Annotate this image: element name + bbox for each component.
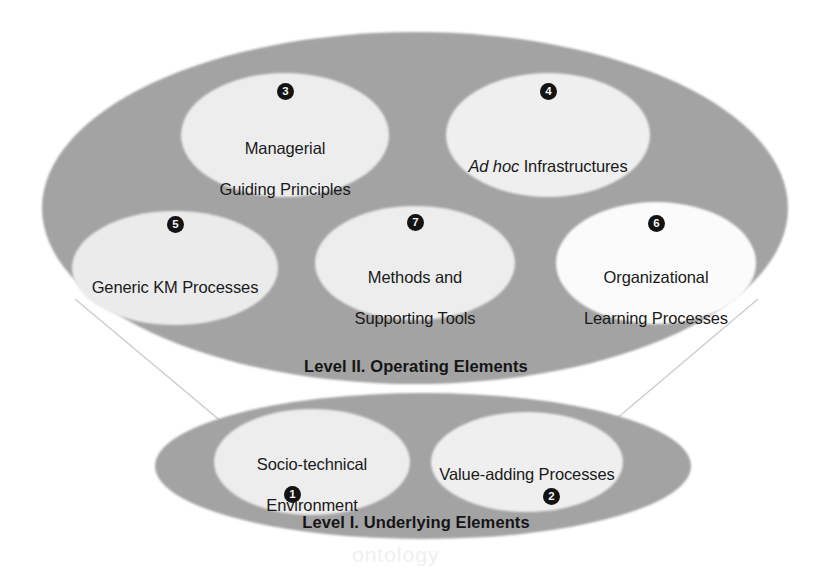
- badge-5: 5: [167, 216, 184, 233]
- badge-4: 4: [540, 83, 557, 100]
- badge-6: 6: [648, 215, 665, 232]
- level-1-label: Level I. Underlying Elements: [0, 513, 832, 532]
- node-ellipse-socio-technical-environment: [214, 409, 410, 515]
- badge-3: 3: [277, 83, 294, 100]
- diagram-canvas: 3 Managerial Guiding Principles 4 Ad hoc…: [0, 0, 832, 571]
- watermark-text: ontology: [352, 543, 439, 567]
- diagram-shapes: [0, 0, 832, 571]
- badge-1: 1: [284, 486, 301, 503]
- badge-2: 2: [543, 488, 560, 505]
- node-ellipse-value-adding-processes: [431, 412, 623, 512]
- level-2-label: Level II. Operating Elements: [0, 357, 832, 376]
- badge-7: 7: [407, 214, 424, 231]
